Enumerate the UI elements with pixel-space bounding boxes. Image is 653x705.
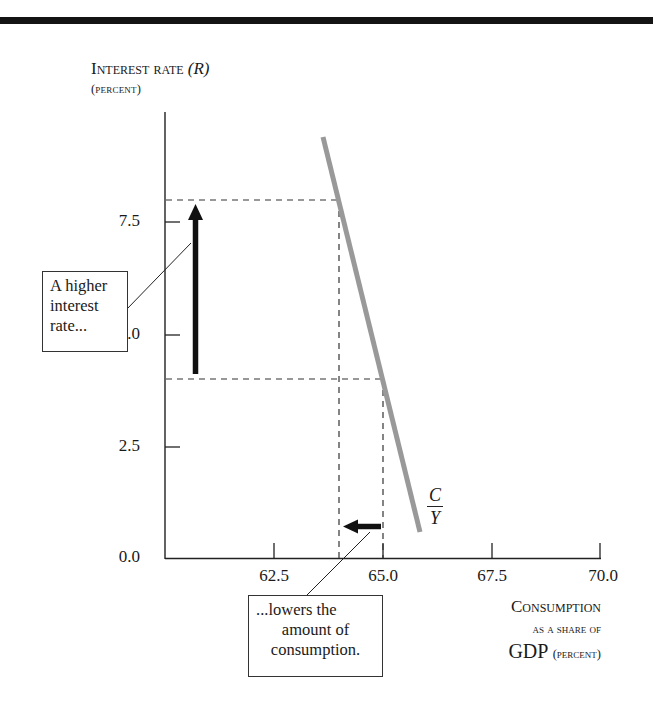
note-higher-rate: A higher interest rate... — [42, 271, 128, 352]
x-axis-title-gdp: GDP — [508, 640, 547, 662]
x-axis-title: Consumption as a share of GDP (percent) — [508, 596, 601, 665]
note-line: A higher — [50, 276, 120, 296]
note-line: ...lowers the — [256, 600, 375, 620]
y-axis-title-main: Interest rate — [91, 59, 184, 78]
y-axis-title: Interest rate (R) (percent) — [91, 59, 210, 99]
cy-numerator: C — [429, 485, 441, 505]
y-tick-label: 2.5 — [98, 436, 140, 456]
x-axis-title-line2: as a share of — [508, 618, 601, 640]
leader-line-higher-rate — [127, 243, 191, 309]
cy-curve — [323, 137, 420, 532]
x-axis-title-unit: (percent) — [553, 647, 601, 661]
x-tick-label: 62.5 — [249, 566, 299, 586]
note-line: interest — [50, 296, 120, 316]
fraction-bar — [427, 506, 443, 507]
y-tick-label: 7.5 — [98, 211, 140, 231]
note-line: rate... — [50, 316, 120, 336]
consumption-decrease-arrowhead-icon — [343, 520, 358, 534]
rate-increase-arrowhead-icon — [188, 204, 203, 220]
note-line: amount of — [256, 620, 375, 640]
cy-curve-label: C Y — [427, 485, 443, 528]
cy-denominator: Y — [430, 508, 440, 528]
leader-line-lowers-consumption — [306, 532, 370, 596]
y-axis-unit: (percent) — [91, 79, 210, 99]
y-axis-variable: (R) — [188, 59, 210, 78]
x-tick-label: 70.0 — [578, 566, 628, 586]
x-axis-title-line1: Consumption — [508, 596, 601, 618]
x-tick-label: 67.5 — [467, 566, 517, 586]
x-tick-label: 65.0 — [358, 566, 408, 586]
note-line: consumption. — [256, 640, 375, 660]
note-lowers-consumption: ...lowers the amount of consumption. — [248, 595, 383, 677]
y-tick-label: 0.0 — [98, 547, 140, 567]
